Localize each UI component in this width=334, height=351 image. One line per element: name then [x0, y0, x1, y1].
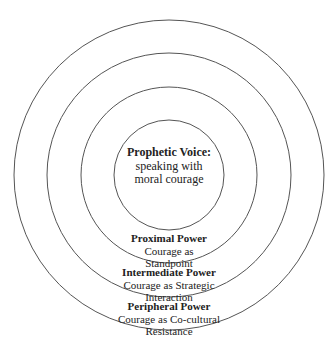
proximal-line-1: Courage as: [99, 245, 239, 258]
center-line-2: moral courage: [99, 173, 239, 187]
intermediate-power-label: Intermediate Power Courage as Strategic …: [99, 266, 239, 304]
intermediate-line-1: Courage as Strategic: [99, 279, 239, 292]
center-label: Prophetic Voice: speaking with moral cou…: [99, 146, 239, 187]
intermediate-power-title: Intermediate Power: [99, 266, 239, 279]
peripheral-power-label: Peripheral Power Courage as Co-cultural …: [99, 300, 239, 338]
peripheral-line-2: Resistance: [99, 325, 239, 338]
center-title: Prophetic Voice:: [99, 146, 239, 160]
proximal-power-title: Proximal Power: [99, 232, 239, 245]
peripheral-power-title: Peripheral Power: [99, 300, 239, 313]
proximal-power-label: Proximal Power Courage as Standpoint: [99, 232, 239, 270]
center-line-1: speaking with: [99, 160, 239, 174]
peripheral-line-1: Courage as Co-cultural: [99, 313, 239, 326]
